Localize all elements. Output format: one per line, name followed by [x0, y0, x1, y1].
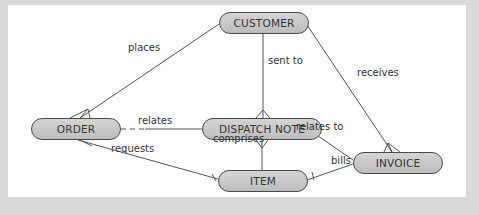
entity-label: ORDER	[57, 123, 96, 135]
edge-places	[80, 24, 219, 118]
label-sent-to: sent to	[268, 55, 303, 66]
label-comprises: comprises	[213, 133, 264, 144]
label-bills: bills	[331, 155, 351, 166]
entity-label: ITEM	[250, 175, 276, 187]
label-receives: receives	[357, 67, 399, 78]
entity-label: CUSTOMER	[234, 17, 295, 29]
label-requests: requests	[111, 143, 154, 154]
entity-customer[interactable]: CUSTOMER	[219, 12, 309, 34]
entity-label: INVOICE	[376, 157, 421, 169]
entity-invoice[interactable]: INVOICE	[353, 152, 443, 174]
label-places: places	[128, 42, 160, 53]
entity-item[interactable]: ITEM	[218, 170, 308, 192]
label-relates-to: relates to	[296, 121, 343, 132]
entity-order[interactable]: ORDER	[31, 118, 121, 140]
label-relates: relates	[138, 115, 172, 126]
